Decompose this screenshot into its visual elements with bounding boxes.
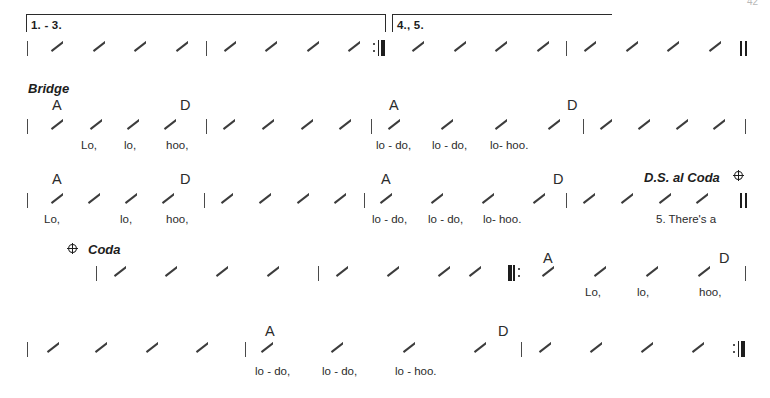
- beat-slash: [379, 193, 392, 204]
- lyric: lo- hoo.: [483, 214, 521, 226]
- beat-slash: [126, 119, 139, 130]
- lyric: lo,: [124, 140, 136, 152]
- beat-slash: [260, 342, 273, 353]
- barline: [206, 41, 207, 56]
- chord-symbol: D: [180, 98, 190, 113]
- lyric: lo- hoo.: [490, 140, 528, 152]
- section-label-bridge: Bridge: [28, 82, 69, 95]
- beat-slash: [453, 41, 466, 52]
- chord-symbol: A: [52, 172, 62, 187]
- beat-slash: [494, 41, 507, 52]
- double-barline: [740, 41, 748, 56]
- beat-slash: [222, 119, 235, 130]
- lyric: Lo,: [585, 287, 601, 299]
- coda-symbol: [732, 169, 745, 182]
- beat-slash: [306, 41, 319, 52]
- barline: [371, 119, 372, 134]
- beat-slash: [220, 193, 233, 204]
- barline: [364, 193, 365, 208]
- chord-symbol: D: [498, 324, 508, 339]
- chord-symbol: A: [52, 98, 62, 113]
- beat-slash: [175, 41, 188, 52]
- beat-slash: [440, 119, 453, 130]
- beat-slash: [582, 193, 595, 204]
- lyric: lo - do,: [255, 366, 290, 378]
- beat-slash: [386, 266, 399, 277]
- beat-slash: [258, 193, 271, 204]
- lyric: Lo,: [44, 214, 60, 226]
- barline: [583, 119, 584, 134]
- beat-slash: [536, 41, 549, 52]
- barline: [206, 119, 207, 134]
- beat-slash: [583, 41, 596, 52]
- beat-slash: [87, 193, 100, 204]
- chord-symbol: D: [553, 172, 563, 187]
- section-label-coda: Coda: [88, 243, 121, 256]
- beat-slash: [675, 119, 688, 130]
- repeat-start-barline: [508, 265, 522, 281]
- beat-slash: [532, 193, 545, 204]
- chord-symbol: A: [381, 172, 391, 187]
- beat-slash: [473, 342, 486, 353]
- beat-slash: [468, 266, 481, 277]
- barline: [245, 342, 246, 357]
- barline: [318, 266, 319, 281]
- chord-symbol: D: [719, 251, 729, 266]
- barline: [521, 342, 522, 357]
- beat-slash: [50, 41, 63, 52]
- beat-slash: [437, 266, 450, 277]
- chord-symbol: A: [265, 324, 275, 339]
- chord-symbol: D: [180, 172, 190, 187]
- lyric: lo,: [120, 214, 132, 226]
- beat-slash: [708, 41, 721, 52]
- lyric: lo,: [637, 287, 649, 299]
- coda-symbol: [66, 242, 79, 255]
- barline: [27, 342, 28, 357]
- beat-slash: [589, 342, 602, 353]
- volta-bracket-1: 1. - 3.: [26, 14, 386, 32]
- beat-slash: [541, 266, 554, 277]
- barline: [27, 41, 28, 56]
- beat-slash: [92, 41, 105, 52]
- lyric: lo - do,: [432, 140, 467, 152]
- volta-label-2: 4., 5.: [397, 19, 424, 31]
- lyric: Lo,: [81, 140, 97, 152]
- beat-slash: [195, 342, 208, 353]
- beat-slash: [347, 41, 360, 52]
- chord-symbol: A: [543, 251, 553, 266]
- beat-slash: [645, 266, 658, 277]
- beat-slash: [666, 41, 679, 52]
- beat-slash: [164, 266, 177, 277]
- beat-slash: [333, 193, 346, 204]
- volta-bracket-2: 4., 5.: [392, 14, 612, 32]
- beat-slash: [50, 193, 63, 204]
- chord-symbol: D: [567, 98, 577, 113]
- beat-slash: [300, 119, 313, 130]
- beat-slash: [593, 266, 606, 277]
- beat-slash: [50, 119, 63, 130]
- beat-slash: [94, 342, 107, 353]
- beat-slash: [163, 119, 176, 130]
- beat-slash: [145, 342, 158, 353]
- beat-slash: [697, 266, 710, 277]
- ds-al-coda-text: D.S. al Coda: [644, 171, 720, 184]
- barline: [96, 266, 97, 281]
- beat-slash: [695, 193, 708, 204]
- lyric: hoo,: [166, 140, 188, 152]
- beat-slash: [223, 41, 236, 52]
- beat-slash: [599, 119, 612, 130]
- beat-slash: [494, 119, 507, 130]
- beat-slash: [625, 41, 638, 52]
- beat-slash: [215, 266, 228, 277]
- beat-slash: [264, 41, 277, 52]
- beat-slash: [547, 119, 560, 130]
- sheet-music-page: 42 1. - 3. 4., 5.: [0, 0, 770, 398]
- beat-slash: [335, 266, 348, 277]
- chord-symbol: A: [389, 98, 399, 113]
- beat-slash: [640, 342, 653, 353]
- page-number: 42: [747, 0, 758, 7]
- beat-slash: [387, 119, 400, 130]
- beat-slash: [266, 266, 279, 277]
- lyric: hoo,: [699, 287, 721, 299]
- beat-slash: [46, 342, 59, 353]
